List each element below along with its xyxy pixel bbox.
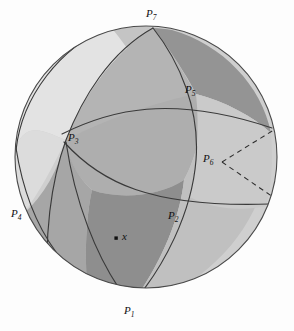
label-sample-point-x: x	[122, 231, 127, 242]
label-p5: P5	[185, 84, 195, 98]
label-p7: P7	[146, 8, 156, 22]
label-p6: P6	[203, 153, 213, 167]
label-p4: P4	[11, 208, 21, 222]
sample-point-marker	[114, 236, 117, 239]
sphere-partition-figure: P7 P5 P3 P6 P4 P2 P1 x	[0, 0, 294, 331]
label-p3: P3	[68, 132, 78, 146]
label-p1: P1	[124, 305, 134, 319]
label-p2: P2	[168, 210, 178, 224]
sphere-diagram-svg	[0, 0, 294, 331]
